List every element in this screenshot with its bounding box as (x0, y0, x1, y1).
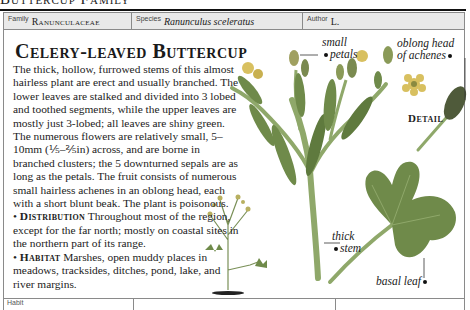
description-paragraph: The thick, hollow, furrowed stems of thi… (13, 63, 241, 210)
habit-cell: Habit (4, 299, 134, 310)
distribution-heading: Distribution (20, 210, 85, 222)
pointer-dot (448, 54, 452, 58)
distribution-section: • Distribution Throughout most of the re… (13, 210, 241, 250)
flower-detail-illustration (402, 74, 426, 96)
basal-leaf-illustration (330, 162, 456, 282)
bullet: • (13, 210, 17, 222)
detail-label: Detail (408, 112, 443, 124)
annotation-small-petals: small petals (322, 36, 357, 60)
bottom-info-row: Habit (3, 298, 465, 310)
bottom-cell-3 (336, 299, 464, 310)
pointer-dot (423, 280, 427, 284)
habitat-heading: Habitat (20, 251, 60, 263)
annotation-basal-leaf: basal leaf (376, 275, 429, 287)
annotation-oblong-head: oblong head of achenes (397, 37, 454, 61)
bullet: • (13, 251, 17, 263)
species-description: The thick, hollow, furrowed stems of thi… (13, 63, 241, 291)
habitat-section: • Habitat Marshes, open muddy places in … (13, 251, 241, 291)
annotation-thick-stem: thick stem (332, 230, 361, 254)
pointer-dot (324, 53, 328, 57)
pointer-dot (334, 247, 338, 251)
bottom-cell-2 (134, 299, 336, 310)
species-title: Celery-leaved Buttercup (15, 40, 247, 63)
